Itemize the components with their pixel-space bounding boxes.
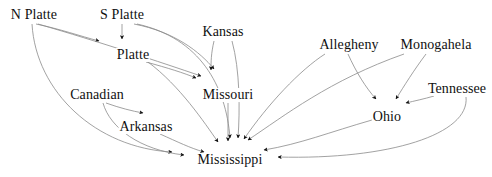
node-label-ohio[interactable]: Ohio: [372, 110, 402, 124]
node-label-arkansas[interactable]: Arkansas: [119, 120, 174, 134]
edge-allegheny-to-mississippi: [244, 54, 325, 139]
edge-tennessee-to-ohio: [406, 96, 434, 103]
edge-tennessee-to-mississippi: [278, 97, 466, 157]
node-label-missouri[interactable]: Missouri: [202, 88, 255, 102]
node-label-monogahela[interactable]: Monogahela: [400, 38, 473, 52]
node-label-canadian[interactable]: Canadian: [69, 88, 125, 102]
edge-monogahela-to-ohio: [396, 54, 426, 99]
edge-kansas-to-missouri: [211, 41, 214, 70]
node-label-tennessee[interactable]: Tennessee: [427, 82, 487, 96]
node-label-allegheny[interactable]: Allegheny: [318, 38, 379, 52]
node-label-kansas[interactable]: Kansas: [201, 25, 244, 39]
edge-canadian-to-arkansas: [106, 103, 143, 113]
edge-allegheny-to-ohio: [348, 54, 376, 99]
edge-platte-to-missouri: [146, 62, 196, 78]
node-label-n-platte[interactable]: N Platte: [10, 8, 58, 22]
edge-monogahela-to-mississippi: [248, 54, 404, 140]
edge-arkansas-to-mississippi: [160, 134, 204, 152]
edge-ohio-to-mississippi: [264, 120, 372, 150]
node-label-mississippi[interactable]: Mississippi: [197, 153, 264, 167]
node-label-platte[interactable]: Platte: [116, 48, 150, 62]
river-confluence-diagram: N Platte S Platte Kansas Platte Missouri…: [0, 0, 492, 177]
node-label-s-platte[interactable]: S Platte: [99, 8, 145, 22]
